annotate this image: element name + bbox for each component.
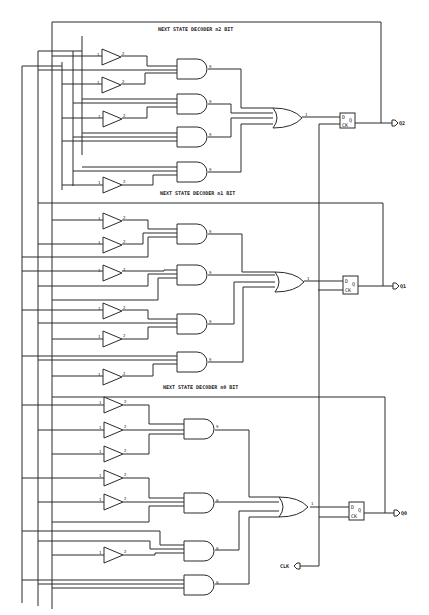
svg-text:1: 1 bbox=[99, 449, 102, 454]
output-port-q2: Q2 bbox=[392, 120, 405, 126]
svg-text:1: 1 bbox=[98, 334, 101, 339]
svg-text:2: 2 bbox=[124, 424, 127, 429]
inverter-gate: 12 bbox=[97, 49, 125, 65]
svg-text:1: 1 bbox=[98, 180, 101, 185]
svg-text:9: 9 bbox=[209, 319, 212, 324]
svg-text:1: 1 bbox=[311, 501, 314, 506]
and-gate: 9 bbox=[184, 493, 219, 513]
and-gate: 9 bbox=[184, 541, 219, 561]
dff-ck-pin: CK bbox=[345, 287, 351, 293]
svg-text:9: 9 bbox=[209, 270, 212, 275]
schematic-canvas: NEXT STATE DECODER n2 BIT NEXT STATE DEC… bbox=[0, 0, 429, 615]
svg-text:1: 1 bbox=[99, 550, 102, 555]
svg-text:9: 9 bbox=[209, 167, 212, 172]
and-gate: 9 bbox=[184, 419, 219, 439]
output-port-q1: Q1 bbox=[393, 283, 406, 289]
dff-d-pin: D bbox=[342, 114, 345, 120]
svg-text:2: 2 bbox=[123, 333, 126, 338]
svg-text:2: 2 bbox=[124, 472, 127, 477]
dff-n2: D Q CK bbox=[340, 113, 355, 128]
inverter-gate: 12 bbox=[97, 77, 125, 93]
and-gate: 9 bbox=[177, 59, 212, 79]
input-buses bbox=[22, 22, 82, 609]
and-gate: 9 bbox=[184, 575, 219, 595]
q-outputs bbox=[355, 123, 394, 513]
and-gate-group: 999999999999 bbox=[177, 59, 219, 595]
svg-text:2: 2 bbox=[123, 239, 126, 244]
or-gate-group: 111 bbox=[273, 108, 314, 517]
logic-schematic: NEXT STATE DECODER n2 BIT NEXT STATE DEC… bbox=[0, 0, 429, 615]
svg-text:2: 2 bbox=[123, 215, 126, 220]
svg-text:1: 1 bbox=[307, 276, 310, 281]
and-gate: 9 bbox=[177, 94, 212, 114]
inverter-gate: 12 bbox=[98, 369, 126, 385]
svg-text:1: 1 bbox=[99, 400, 102, 405]
and-gate: 9 bbox=[177, 127, 212, 147]
dff-ck-pin: CK bbox=[351, 513, 357, 519]
or-gate: 1 bbox=[273, 108, 308, 128]
svg-text:2: 2 bbox=[124, 399, 127, 404]
svg-text:2: 2 bbox=[123, 113, 126, 118]
svg-text:2: 2 bbox=[123, 371, 126, 376]
dff-q-pin: Q bbox=[358, 507, 361, 513]
clock-wire bbox=[300, 124, 349, 566]
and-gate: 9 bbox=[177, 352, 212, 372]
clock-label: CLK bbox=[280, 563, 289, 569]
clock-input-port: CLK bbox=[280, 563, 300, 569]
or-gate: 1 bbox=[279, 497, 314, 517]
dff-n0: D Q CK bbox=[349, 502, 364, 520]
title-n0: NEXT STATE DECODER n0 BIT bbox=[163, 384, 238, 390]
dff-q-pin: Q bbox=[352, 281, 355, 287]
svg-text:9: 9 bbox=[209, 132, 212, 137]
and-gate: 9 bbox=[177, 314, 212, 334]
svg-text:1: 1 bbox=[99, 425, 102, 430]
svg-text:9: 9 bbox=[209, 357, 212, 362]
feedback-wires bbox=[38, 22, 385, 513]
port-label: Q0 bbox=[401, 510, 407, 516]
and-gate: 9 bbox=[177, 162, 212, 182]
dff-d-pin: D bbox=[351, 504, 354, 510]
svg-text:1: 1 bbox=[99, 497, 102, 502]
svg-text:9: 9 bbox=[209, 99, 212, 104]
svg-text:2: 2 bbox=[123, 179, 126, 184]
and-gate: 9 bbox=[177, 265, 212, 285]
svg-text:1: 1 bbox=[99, 473, 102, 478]
inverter-gate: 12 bbox=[98, 303, 126, 319]
inverter-gate: 12 bbox=[98, 111, 126, 127]
svg-text:2: 2 bbox=[123, 305, 126, 310]
inverter-gate: 12 bbox=[98, 213, 126, 229]
svg-text:1: 1 bbox=[305, 112, 308, 117]
title-n2: NEXT STATE DECODER n2 BIT bbox=[158, 26, 233, 32]
or-gate: 1 bbox=[275, 272, 310, 292]
port-label: Q2 bbox=[399, 120, 405, 126]
svg-text:9: 9 bbox=[216, 424, 219, 429]
svg-text:2: 2 bbox=[124, 496, 127, 501]
title-n1: NEXT STATE DECODER n1 BIT bbox=[160, 190, 235, 196]
inverter-gate: 12 bbox=[98, 265, 126, 281]
dff-ck-pin: CK bbox=[342, 122, 348, 128]
dff-q-pin: Q bbox=[349, 117, 352, 123]
svg-text:2: 2 bbox=[122, 51, 125, 56]
inverter-group: 12121212121212121212121212121212 bbox=[97, 49, 127, 563]
svg-text:9: 9 bbox=[209, 229, 212, 234]
svg-text:9: 9 bbox=[209, 64, 212, 69]
output-port-q0: Q0 bbox=[394, 510, 407, 516]
svg-text:2: 2 bbox=[124, 549, 127, 554]
svg-text:2: 2 bbox=[124, 448, 127, 453]
svg-text:2: 2 bbox=[122, 79, 125, 84]
dff-n1: D Q CK bbox=[343, 276, 358, 294]
inverter-gate: 12 bbox=[98, 237, 126, 253]
port-label: Q1 bbox=[400, 283, 406, 289]
dff-d-pin: D bbox=[345, 278, 348, 284]
and-gate: 9 bbox=[177, 224, 212, 244]
